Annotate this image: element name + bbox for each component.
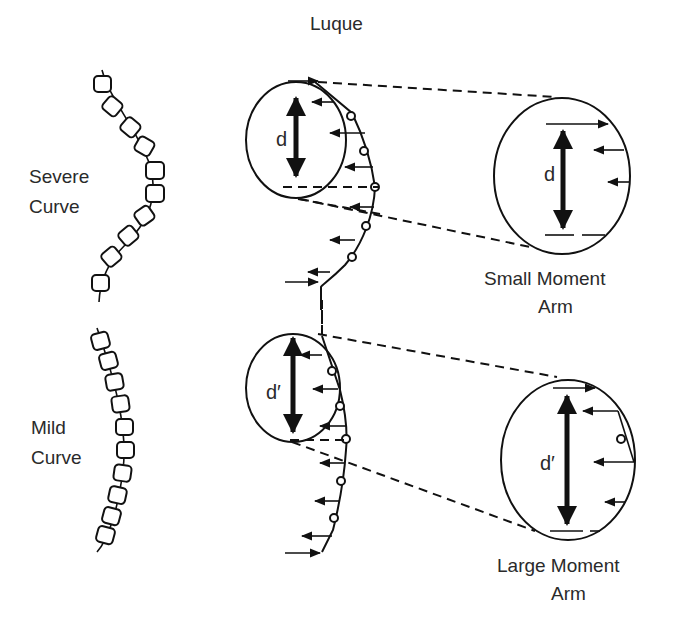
- diagram-title: Luque: [310, 13, 363, 34]
- severe-callout-label-line1: Small Moment: [484, 268, 606, 289]
- severe-connector-top: [318, 82, 555, 97]
- severe-label-line2: Curve: [29, 196, 80, 217]
- mild-callout-dimension-label: d′: [540, 452, 555, 474]
- severe-callout-label-line2: Arm: [538, 296, 573, 317]
- severe-callout: d Small Moment Arm: [484, 98, 630, 317]
- mild-spine-icon: [90, 328, 134, 552]
- severe-callout-dimension-label: d: [544, 163, 555, 185]
- mild-callout-label-line2: Arm: [551, 583, 586, 604]
- severe-dimension-label: d: [276, 128, 287, 150]
- luque-diagram: Luque Severe Curve: [0, 0, 677, 630]
- severe-spine-icon: [92, 70, 164, 302]
- mild-connector-bottom: [292, 442, 535, 531]
- severe-curve-panel: Severe Curve: [29, 70, 630, 330]
- wire-loop-icon: [347, 112, 355, 120]
- severe-rod-profile: d: [246, 81, 380, 330]
- mild-label-line2: Curve: [31, 447, 82, 468]
- mild-label-line1: Mild: [31, 417, 66, 438]
- severe-label-line1: Severe: [29, 166, 89, 187]
- mild-curve-panel: Mild Curve: [31, 300, 635, 604]
- mild-callout-label-line1: Large Moment: [497, 555, 620, 576]
- mild-callout: d′ Large Moment Arm: [497, 380, 635, 604]
- mild-connector-top: [318, 334, 557, 377]
- mild-dimension-label: d′: [266, 381, 281, 403]
